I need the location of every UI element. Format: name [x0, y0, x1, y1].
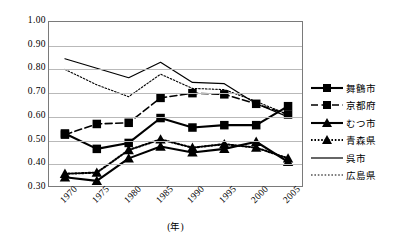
data-point-square: [220, 121, 229, 130]
data-point-square: [252, 121, 261, 130]
legend-label: 舞鶴市: [344, 81, 376, 95]
y-axis-tick-label: 0.50: [2, 135, 46, 145]
data-point-square: [93, 120, 102, 129]
legend-item-1[interactable]: 京都府: [310, 97, 396, 115]
y-axis-tick-label: 0.70: [2, 87, 46, 97]
data-point-square: [156, 114, 165, 123]
gridline: [49, 141, 302, 142]
legend-symbol-icon: [310, 98, 344, 112]
legend-symbol-icon: [310, 151, 344, 165]
chart-figure: 1.000.900.800.700.600.500.400.30 1970197…: [0, 0, 396, 239]
plot-area: [48, 21, 303, 187]
legend-item-4[interactable]: 呉市: [310, 149, 396, 167]
legend-label: 広島県: [344, 168, 376, 182]
gridline: [49, 69, 302, 70]
legend: 舞鶴市京都府むつ市青森県呉市広島県: [310, 79, 396, 184]
data-point-square: [220, 90, 229, 99]
legend-item-0[interactable]: 舞鶴市: [310, 79, 396, 97]
y-axis-tick-label: 0.40: [2, 158, 46, 168]
data-point-square: [284, 102, 293, 111]
data-point-square: [61, 130, 70, 139]
legend-symbol-icon: [310, 133, 344, 147]
data-point-square: [188, 123, 197, 132]
legend-label: むつ市: [344, 116, 376, 130]
y-axis-tick-label: 0.90: [2, 40, 46, 50]
gridline: [49, 93, 302, 94]
legend-symbol-icon: [310, 168, 344, 182]
legend-item-2[interactable]: むつ市: [310, 114, 396, 132]
series-line: [65, 59, 288, 117]
series-1: [61, 89, 293, 139]
y-axis-tick-label: 1.00: [2, 16, 46, 26]
gridline: [49, 164, 302, 165]
x-axis: 19701975198019851990199520002005: [0, 188, 320, 222]
y-axis-tick-label: 0.60: [2, 111, 46, 121]
series-4: [65, 59, 288, 117]
data-point-triangle: [155, 134, 165, 143]
x-axis-title: (年): [48, 219, 303, 233]
legend-label: 青森県: [344, 133, 376, 147]
data-point-square: [124, 119, 133, 128]
legend-label: 呉市: [344, 151, 366, 165]
data-point-square: [93, 145, 102, 154]
legend-label: 京都府: [344, 98, 376, 112]
y-axis-tick-label: 0.80: [2, 63, 46, 73]
gridline: [49, 46, 302, 47]
legend-symbol-icon: [310, 116, 344, 130]
gridline: [49, 117, 302, 118]
legend-item-3[interactable]: 青森県: [310, 132, 396, 150]
legend-item-5[interactable]: 広島県: [310, 167, 396, 185]
legend-symbol-icon: [310, 81, 344, 95]
data-point-square: [156, 94, 165, 103]
